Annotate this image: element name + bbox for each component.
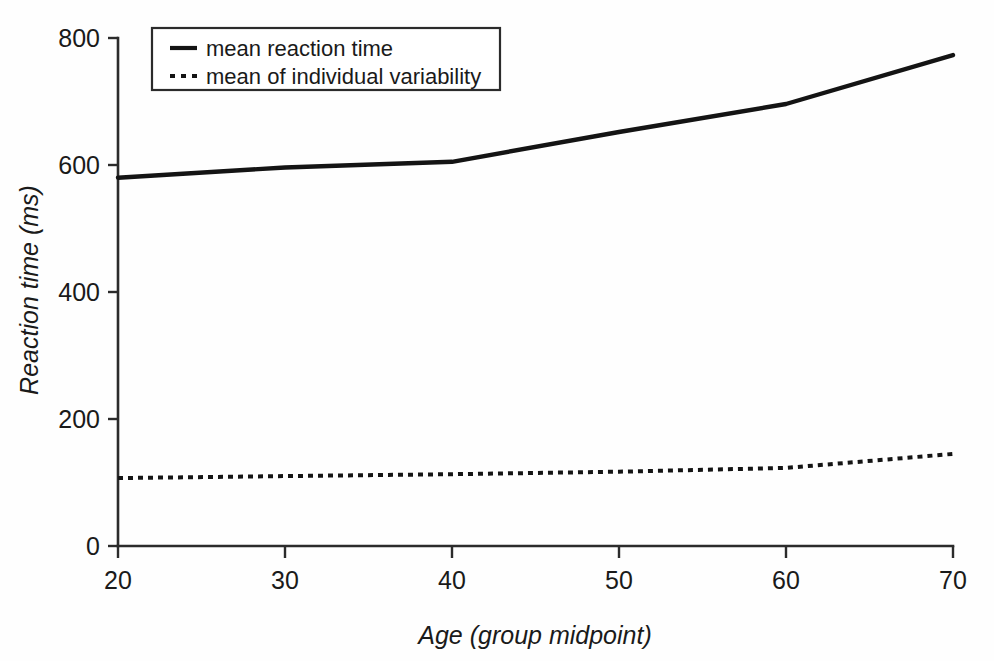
legend-label-mean-individual-variability: mean of individual variability [206,64,481,89]
y-tick-marks [108,38,118,546]
y-tick-labels: 800 600 400 200 0 [58,24,100,560]
axis-group [118,38,953,546]
legend: mean reaction time mean of individual va… [152,28,500,90]
x-tick-label-20: 20 [104,566,132,594]
chart-figure: 800 600 400 200 0 20 30 40 50 60 70 Age … [0,0,994,661]
series-line-mean-individual-variability [118,454,953,478]
line-chart-canvas: 800 600 400 200 0 20 30 40 50 60 70 Age … [0,0,994,661]
y-tick-label-800: 800 [58,24,100,52]
x-tick-label-70: 70 [939,566,967,594]
x-axis-title: Age (group midpoint) [416,621,651,649]
x-tick-label-30: 30 [271,566,299,594]
y-tick-label-400: 400 [58,278,100,306]
y-tick-label-200: 200 [58,405,100,433]
x-tick-marks [118,546,953,558]
x-tick-label-60: 60 [772,566,800,594]
x-tick-labels: 20 30 40 50 60 70 [104,566,967,594]
y-tick-label-600: 600 [58,151,100,179]
y-tick-label-0: 0 [86,532,100,560]
y-axis-title: Reaction time (ms) [15,185,43,395]
x-tick-label-50: 50 [605,566,633,594]
x-tick-label-40: 40 [438,566,466,594]
legend-label-mean-reaction-time: mean reaction time [206,36,393,61]
